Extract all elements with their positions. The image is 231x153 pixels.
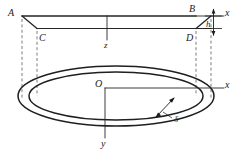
label-axis-z: z bbox=[103, 40, 108, 50]
inner-ellipse bbox=[29, 72, 203, 120]
elevation-view-group bbox=[22, 16, 211, 29]
h-arrow-head-up bbox=[212, 9, 216, 14]
label-point-a: A bbox=[7, 7, 15, 18]
label-point-d: D bbox=[185, 32, 194, 43]
label-axis-x-top: x bbox=[224, 7, 230, 18]
edge-a-c bbox=[22, 16, 37, 29]
label-axis-y: y bbox=[100, 138, 106, 149]
label-point-c: C bbox=[39, 32, 46, 43]
label-point-b: B bbox=[189, 3, 195, 14]
outer-ellipse bbox=[18, 66, 214, 126]
plan-view-annulus-group bbox=[18, 66, 214, 126]
h-arrow-head-down bbox=[212, 31, 216, 36]
figure-container: A B C D x z h O x y δ bbox=[0, 0, 231, 153]
label-thickness-h: h bbox=[206, 19, 211, 29]
annular-plate-diagram: A B C D x z h O x y δ bbox=[0, 0, 231, 153]
label-center-o: O bbox=[95, 78, 102, 89]
label-axis-x-bottom: x bbox=[224, 79, 230, 90]
